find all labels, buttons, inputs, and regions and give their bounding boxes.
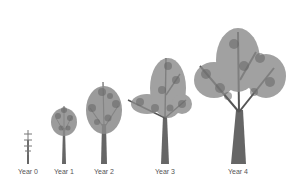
label-year-2: Year 2 bbox=[94, 168, 114, 175]
tree-year-4 bbox=[194, 28, 286, 164]
label-year-4: Year 4 bbox=[228, 168, 248, 175]
tree-year-2 bbox=[86, 82, 122, 164]
trees-illustration bbox=[0, 0, 301, 184]
tree-year-1 bbox=[51, 106, 77, 164]
label-year-1: Year 1 bbox=[54, 168, 74, 175]
label-year-0: Year 0 bbox=[18, 168, 38, 175]
tree-year-3 bbox=[128, 58, 192, 164]
tree-year-0 bbox=[24, 130, 32, 164]
label-year-3: Year 3 bbox=[155, 168, 175, 175]
